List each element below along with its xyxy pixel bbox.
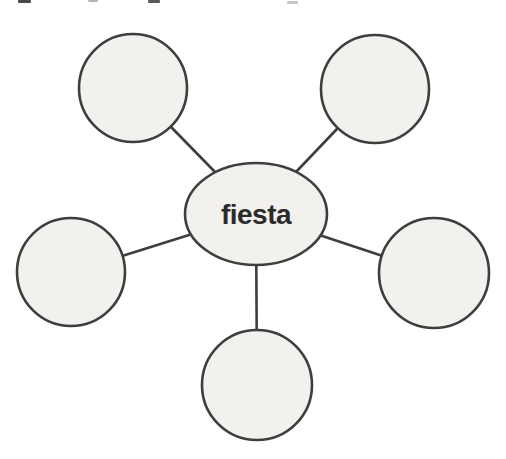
node-top-right — [321, 35, 429, 143]
node-bottom — [202, 330, 312, 440]
scan-artifact — [148, 0, 160, 3]
node-top-left — [79, 34, 187, 142]
scan-artifact — [88, 0, 98, 2]
node-left — [17, 218, 125, 326]
word-web-diagram: fiesta — [0, 0, 506, 459]
node-right — [379, 218, 489, 328]
scan-artifact — [287, 1, 298, 4]
worksheet-page: fiesta — [0, 0, 506, 459]
scan-artifact — [18, 0, 31, 3]
center-node-label: fiesta — [221, 199, 292, 230]
